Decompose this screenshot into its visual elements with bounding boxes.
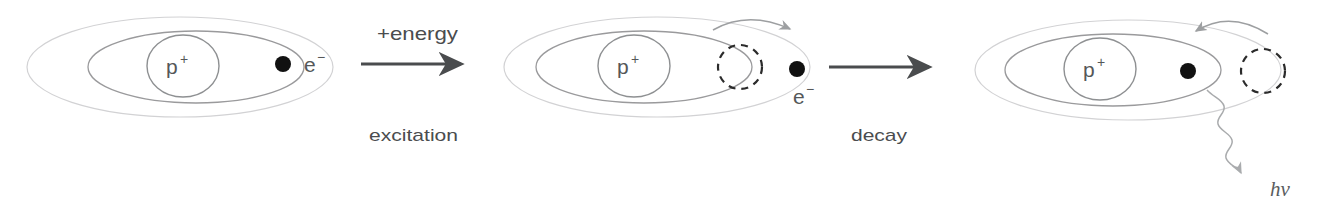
excited-state-atom: p + e − (504, 17, 814, 117)
atomic-transition-diagram: p + e − +energy excitation p + e − (0, 0, 1319, 205)
proton-label: p (1083, 58, 1095, 81)
electron-dot (275, 56, 291, 72)
photon-wave-arrow (1207, 90, 1241, 173)
electron-label: e (304, 53, 316, 76)
excitation-transition: +energy excitation (361, 23, 461, 145)
outer-orbit-ellipse (504, 17, 810, 117)
decay-step-label: decay (851, 126, 908, 145)
electron-dot (789, 61, 805, 77)
proton-charge-label: + (1097, 54, 1105, 70)
proton-charge-label: + (631, 51, 639, 67)
excitation-curved-arrow (713, 20, 790, 30)
ground-state-atom: p + e − (27, 17, 333, 117)
decay-transition: decay (829, 67, 929, 145)
proton-charge-label: + (180, 51, 188, 67)
proton-label: p (617, 55, 629, 78)
inner-orbit-ellipse (536, 31, 752, 103)
energy-input-label: +energy (377, 23, 459, 44)
electron-dot (1180, 63, 1196, 79)
electron-label: e (793, 85, 805, 108)
ghost-electron-inner (718, 45, 762, 89)
diagram-canvas: p + e − +energy excitation p + e − (0, 0, 1319, 205)
decayed-state-atom: p + hν (975, 20, 1291, 201)
photon-label: hν (1270, 177, 1291, 201)
inner-orbit-ellipse (88, 31, 304, 103)
electron-charge-label: − (806, 81, 814, 97)
outer-orbit-ellipse (975, 20, 1281, 120)
excitation-step-label: excitation (369, 126, 458, 145)
proton-label: p (166, 55, 178, 78)
ghost-electron-outer (1241, 49, 1285, 93)
electron-charge-label: − (317, 49, 325, 65)
